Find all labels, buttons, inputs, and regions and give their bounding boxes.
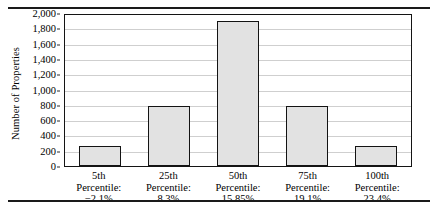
x-category-rank: 5th [64,170,134,182]
x-category-word: Percentile: [342,182,412,194]
plot-area [64,14,412,167]
y-tick-mark [57,136,60,137]
top-horizontal-rule [8,7,430,9]
bar[interactable] [148,106,190,166]
y-tick-mark [57,44,60,45]
bar-slot [203,15,272,166]
bar[interactable] [217,21,259,166]
y-axis-title-text: Number of Properties [10,47,21,140]
y-tick-label: 1,800 [32,24,56,35]
y-tick-label: 800 [40,101,56,112]
bar[interactable] [355,146,397,166]
bar-slot [342,15,411,166]
y-tick-label: 1,400 [32,55,56,66]
bar-series [65,15,411,166]
x-category-word: Percentile: [64,182,134,194]
y-tick-mark [57,29,60,30]
bar-chart-figure: Number of Properties 2,0001,8001,6001,40… [0,0,439,215]
y-tick-mark [57,121,60,122]
y-tick-label: 0 [51,162,56,173]
x-category-rank: 25th [134,170,204,182]
x-category-percent: −2.1% [64,193,134,205]
y-tick-label: 400 [40,131,56,142]
y-tick-mark [57,90,60,91]
y-tick-mark [57,151,60,152]
y-tick-mark [57,75,60,76]
y-tick-label: 1,000 [32,85,56,96]
x-category-percent: 15.85% [203,193,273,205]
y-tick-mark [57,105,60,106]
x-category-percent: 8.3% [134,193,204,205]
y-tick-label: 200 [40,146,56,157]
bottom-horizontal-rule [8,200,430,202]
y-tick-label: 1,600 [32,39,56,50]
bar-slot [273,15,342,166]
y-tick-label: 1,200 [32,70,56,81]
y-tick-mark [57,167,60,168]
bar[interactable] [286,106,328,166]
bar-slot [65,15,134,166]
bar[interactable] [79,146,121,166]
x-category-rank: 100th [342,170,412,182]
x-category-rank: 75th [273,170,343,182]
x-category-word: Percentile: [134,182,204,194]
y-tick-label: 2,000 [32,9,56,20]
y-tick-mark [57,59,60,60]
x-category-rank: 50th [203,170,273,182]
y-axis-tick-labels: 2,0001,8001,6001,4001,2001,0008006004002… [22,14,60,167]
y-tick-mark [57,14,60,15]
x-category-percent: 19.1% [273,193,343,205]
x-category-percent: 23.4% [342,193,412,205]
bar-slot [134,15,203,166]
x-category-word: Percentile: [273,182,343,194]
x-category-word: Percentile: [203,182,273,194]
y-tick-label: 600 [40,116,56,127]
